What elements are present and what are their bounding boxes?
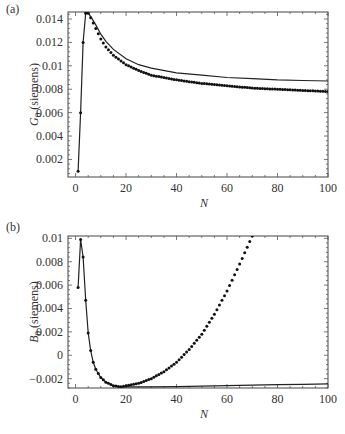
y-axis-label-unit: (siemens) <box>27 281 41 331</box>
data-marker <box>203 329 206 332</box>
data-marker <box>77 286 80 289</box>
data-marker <box>233 273 236 276</box>
data-marker <box>104 46 107 49</box>
y-axis-label-var: G <box>27 117 41 126</box>
data-marker <box>122 385 125 388</box>
data-marker <box>183 353 186 356</box>
y-tick-label: 0 <box>57 348 63 362</box>
panel-b: (b)020406080100N−0.00200.0020.0040.0060.… <box>0 217 345 434</box>
data-marker <box>130 383 133 386</box>
y-axis: 0.0020.0040.0060.0080.010.0120.014G0 (si… <box>27 12 328 173</box>
data-marker <box>253 229 256 232</box>
data-marker <box>251 235 254 238</box>
y-axis-label: B0 (siemens) <box>27 281 43 343</box>
data-marker <box>190 80 193 83</box>
y-tick-label: 0.01 <box>42 231 63 245</box>
data-marker <box>180 356 183 359</box>
data-marker <box>89 349 92 352</box>
data-marker <box>193 81 196 84</box>
y-tick-label: 0.002 <box>36 152 63 166</box>
data-marker <box>120 59 123 62</box>
data-marker <box>82 41 85 44</box>
data-marker <box>102 42 105 45</box>
data-marker <box>94 368 97 371</box>
data-marker <box>223 294 226 297</box>
panel-a: (a)020406080100N0.0020.0040.0060.0080.01… <box>0 0 345 217</box>
data-marker <box>117 385 120 388</box>
data-marker <box>170 77 173 80</box>
data-marker <box>185 350 188 353</box>
series-group <box>77 12 330 173</box>
chart-b: (b)020406080100N−0.00200.0020.0040.0060.… <box>0 217 345 434</box>
y-axis: −0.00200.0020.0040.0060.0080.01B0 (sieme… <box>27 231 328 388</box>
x-tick-label: 100 <box>319 392 337 406</box>
data-marker <box>155 374 158 377</box>
data-marker <box>183 79 186 82</box>
data-marker <box>195 339 198 342</box>
data-marker <box>112 384 115 387</box>
data-marker <box>109 51 112 54</box>
data-marker <box>167 77 170 80</box>
data-marker <box>117 58 120 61</box>
x-tick-label: 20 <box>120 181 132 195</box>
data-marker <box>92 22 95 25</box>
plot-frame <box>68 12 328 177</box>
data-marker <box>256 223 259 226</box>
data-marker <box>173 363 176 366</box>
x-axis: 020406080100N <box>73 12 337 210</box>
data-marker <box>248 240 251 243</box>
data-marker <box>127 384 130 387</box>
data-marker <box>120 385 123 388</box>
x-tick-label: 0 <box>73 392 79 406</box>
data-marker <box>160 372 163 375</box>
data-marker <box>122 61 125 64</box>
data-marker <box>238 263 241 266</box>
data-marker <box>87 332 90 335</box>
data-marker <box>165 368 168 371</box>
y-tick-label: 0.014 <box>36 12 63 26</box>
data-marker <box>77 170 80 173</box>
x-tick-label: 40 <box>171 392 183 406</box>
data-marker <box>167 366 170 369</box>
data-marker <box>157 373 160 376</box>
x-axis-label: N <box>199 407 209 421</box>
series-group <box>77 223 328 389</box>
data-marker <box>82 256 85 259</box>
x-tick-label: 60 <box>221 392 233 406</box>
data-marker <box>155 75 158 78</box>
plot-frame <box>68 236 328 388</box>
data-marker <box>193 342 196 345</box>
data-marker <box>92 361 95 364</box>
data-marker <box>152 376 155 379</box>
y-axis-label-unit: (siemens) <box>27 63 41 113</box>
data-marker <box>180 79 183 82</box>
panel-label: (a) <box>6 2 19 16</box>
y-tick-label: 0.01 <box>42 59 63 73</box>
data-marker <box>175 78 178 81</box>
data-marker <box>198 82 201 85</box>
series-line <box>78 13 328 171</box>
data-marker <box>97 372 100 375</box>
chart-a: (a)020406080100N0.0020.0040.0060.0080.01… <box>0 0 345 217</box>
data-marker <box>215 308 218 311</box>
y-tick-label: 0.004 <box>36 129 63 143</box>
data-marker <box>226 289 229 292</box>
x-tick-label: 40 <box>171 181 183 195</box>
x-tick-label: 60 <box>221 181 233 195</box>
data-marker <box>99 37 102 40</box>
data-marker <box>190 345 193 348</box>
data-marker <box>125 384 128 387</box>
data-marker <box>220 299 223 302</box>
data-marker <box>208 321 211 324</box>
data-marker <box>246 246 249 249</box>
data-marker <box>241 257 244 260</box>
y-tick-label: 0.012 <box>36 35 63 49</box>
data-marker <box>162 76 165 79</box>
data-marker <box>150 377 153 380</box>
data-marker <box>84 299 87 302</box>
data-marker <box>160 76 163 79</box>
data-marker <box>97 32 100 35</box>
data-marker <box>162 370 165 373</box>
x-tick-label: 80 <box>272 392 284 406</box>
data-marker <box>165 77 168 80</box>
